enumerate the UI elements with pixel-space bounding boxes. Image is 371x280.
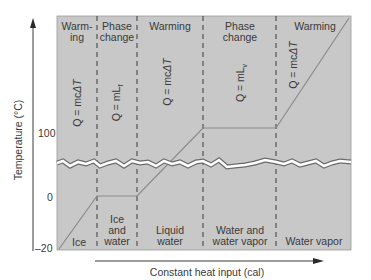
region-4-bottom-label-line2: water vapor — [212, 235, 268, 247]
equation-warming-vapor: Q = mcΔT — [287, 40, 299, 89]
region-1-top-label-line2: ing — [70, 31, 84, 43]
heating-curve-diagram: Warm- ing Phase change Warming Phase cha… — [0, 0, 371, 280]
y-axis-label: Temperature (°C) — [12, 100, 24, 181]
equation-warming-water: Q = mcΔT — [161, 57, 173, 106]
y-axis: Temperature (°C) 100 0 –20 — [12, 18, 56, 254]
region-4-top-label-line2: change — [223, 31, 258, 43]
region-2-bottom-label-line3: water — [103, 235, 130, 247]
x-axis: Constant heat input (cal) — [95, 258, 324, 278]
region-5-top-label: Warming — [294, 20, 336, 32]
equation-fusion: Q = mLf — [110, 85, 124, 122]
region-3-bottom-label-line2: water — [156, 235, 183, 247]
region-5-bottom-label: Water vapor — [286, 235, 343, 247]
x-axis-label: Constant heat input (cal) — [150, 266, 264, 278]
equation-vaporization: Q = mLv — [234, 63, 248, 102]
y-axis-arrow-icon — [30, 18, 36, 28]
region-3-top-label: Warming — [149, 20, 191, 32]
y-tick-100: 100 — [38, 127, 56, 139]
x-axis-arrow-icon — [313, 258, 324, 264]
plot-area — [57, 16, 351, 250]
equation-warming-ice: Q = mcΔT — [71, 78, 83, 127]
region-2-top-label-line2: change — [100, 31, 135, 43]
y-tick-0: 0 — [47, 191, 53, 203]
y-tick-minus-20: –20 — [35, 242, 53, 254]
region-1-bottom-label: Ice — [72, 236, 86, 248]
